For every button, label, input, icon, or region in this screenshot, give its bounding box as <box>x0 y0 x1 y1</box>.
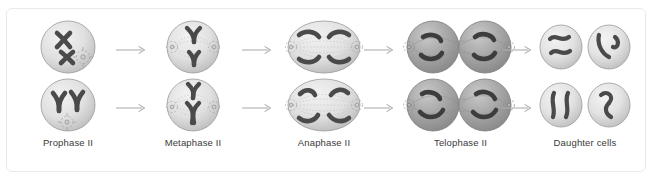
telophase-lobes <box>407 79 511 131</box>
daughter-cell-3 <box>540 83 582 127</box>
stage-label-telophase-2: Telophase II <box>393 137 528 148</box>
stage-label-metaphase-2: Metaphase II <box>132 137 254 148</box>
daughter-cells-row-bottom <box>523 77 647 133</box>
prophase-2-cell-bottom <box>7 77 129 133</box>
arrow-anaphase-to-telophase <box>363 45 397 55</box>
telophase-lobes <box>407 21 511 73</box>
prophase-2-row-top <box>7 19 129 75</box>
stage-label-daughter-cells: Daughter cells <box>523 137 647 148</box>
daughter-cells-row-top <box>523 19 647 75</box>
prophase-2-cell-top <box>7 19 129 75</box>
metaphase-2-row-bottom <box>132 77 254 133</box>
daughter-cells-bottom <box>523 77 647 133</box>
prophase-2-row-bottom <box>7 77 129 133</box>
stage-label-anaphase-2: Anaphase II <box>259 137 389 148</box>
arrow-anaphase-to-telophase-bottom <box>363 103 397 113</box>
daughter-cells-top <box>523 19 647 75</box>
stage-prophase-2: Prophase II <box>7 9 129 173</box>
daughter-cell-1 <box>540 25 582 69</box>
stage-daughter-cells: Daughter cells <box>523 9 647 173</box>
daughter-cell-2 <box>588 25 630 69</box>
stage-metaphase-2: Metaphase II <box>132 9 254 173</box>
metaphase-2-cell-bottom <box>132 77 254 133</box>
metaphase-2-cell-top <box>132 19 254 75</box>
stage-anaphase-2: Anaphase II <box>259 9 389 173</box>
metaphase-2-row-top <box>132 19 254 75</box>
stage-label-prophase-2: Prophase II <box>7 137 129 148</box>
meiosis-2-diagram-frame: Prophase II <box>6 8 646 172</box>
stage-telophase-2: Telophase II <box>393 9 528 173</box>
